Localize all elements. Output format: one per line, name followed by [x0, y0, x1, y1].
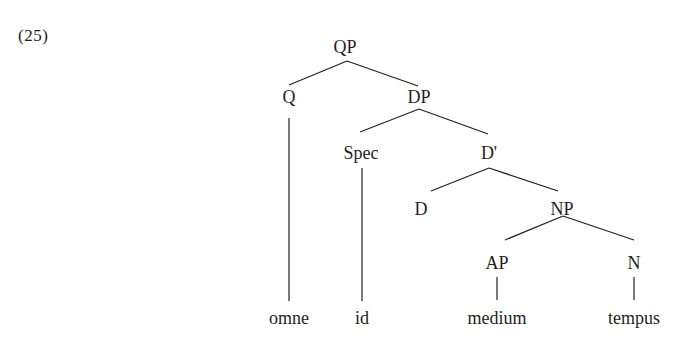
branch-dbar-d — [431, 168, 489, 191]
node-dbar: D' — [481, 143, 497, 163]
branch-dp-dbar — [419, 109, 488, 134]
branch-dbar-np — [489, 168, 558, 191]
leaf-medium: medium — [468, 308, 527, 328]
node-n: N — [628, 253, 641, 273]
node-ap: AP — [485, 253, 508, 273]
syntax-tree: QP Q DP Spec D' D NP AP N omne id medium… — [0, 0, 681, 350]
tree-nodes: QP Q DP Spec D' D NP AP N — [283, 37, 641, 273]
leaf-tempus: tempus — [608, 308, 660, 328]
tree-branches — [289, 61, 634, 301]
branch-np-n — [563, 216, 634, 240]
branch-dp-spec — [360, 109, 419, 132]
leaf-id: id — [355, 308, 369, 328]
branch-np-ap — [505, 216, 563, 240]
node-np: NP — [550, 199, 573, 219]
leaf-omne: omne — [269, 308, 309, 328]
node-d: D — [415, 199, 428, 219]
node-dp: DP — [407, 87, 430, 107]
branch-qp-q — [289, 61, 347, 85]
branch-qp-dp — [347, 61, 418, 86]
node-spec: Spec — [344, 143, 379, 163]
tree-leaves: omne id medium tempus — [269, 308, 660, 328]
node-q: Q — [283, 87, 296, 107]
node-qp: QP — [333, 37, 356, 57]
